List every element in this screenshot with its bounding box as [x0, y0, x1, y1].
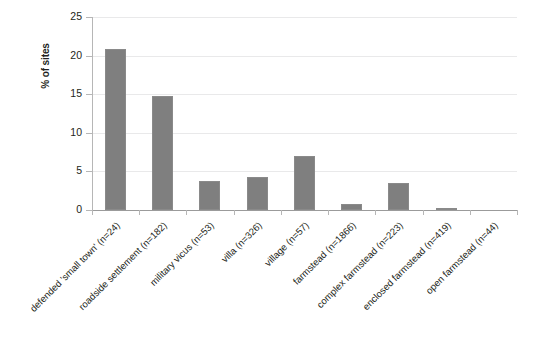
bar — [247, 177, 268, 210]
bar — [105, 49, 126, 210]
x-tick-mark-3 — [234, 210, 235, 215]
y-tick-label-0: 0 — [54, 204, 82, 215]
y-tick-label-wrap-20: 20 — [52, 50, 82, 61]
x-tick-mark-5 — [328, 210, 329, 215]
bar — [436, 208, 457, 210]
bar — [294, 156, 315, 210]
y-tick-label-wrap-5: 5 — [52, 165, 82, 176]
y-tick-label-5: 5 — [54, 165, 82, 176]
bar — [341, 204, 362, 210]
x-axis-label: roadside settlement (n=182) — [0, 220, 169, 343]
y-tick-label-wrap-10: 10 — [52, 127, 82, 138]
y-tick-label-wrap-25: 25 — [52, 11, 82, 22]
y-tick-label-15: 15 — [54, 88, 82, 99]
x-tick-mark-9 — [517, 210, 518, 215]
bar — [152, 96, 173, 210]
y-tick-label-wrap-0: 0 — [52, 204, 82, 215]
bars-group — [92, 17, 517, 210]
x-tick-mark-8 — [470, 210, 471, 215]
gridline-0 — [92, 210, 517, 211]
x-tick-mark-0 — [92, 210, 93, 215]
x-tick-mark-6 — [375, 210, 376, 215]
y-tick-label-25: 25 — [54, 11, 82, 22]
y-tick-label-10: 10 — [54, 127, 82, 138]
bar-chart: % of sites 0510152025 defended 'small to… — [0, 0, 533, 343]
x-tick-mark-2 — [186, 210, 187, 215]
x-tick-mark-7 — [423, 210, 424, 215]
y-tick-label-wrap-15: 15 — [52, 88, 82, 99]
x-tick-mark-4 — [281, 210, 282, 215]
bar — [388, 183, 409, 210]
y-tick-label-20: 20 — [54, 50, 82, 61]
x-tick-mark-1 — [139, 210, 140, 215]
bar — [199, 181, 220, 210]
